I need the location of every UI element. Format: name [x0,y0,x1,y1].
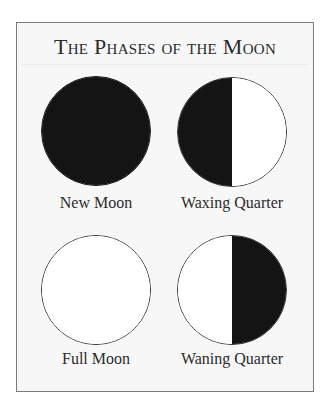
waning-quarter-label: Waning Quarter [162,350,302,368]
new-moon-left-half [42,77,96,185]
full-moon-label: Full Moon [26,350,166,368]
new-moon-label: New Moon [26,194,166,212]
title-divider [21,64,309,65]
diagram-frame: The Phases of the Moon New Moon Waxing Q… [16,22,314,392]
waxing-quarter-right-half [232,78,286,186]
waning-quarter-left-half [178,236,232,344]
new-moon-icon [41,76,151,186]
waxing-quarter-left-half [178,78,232,186]
full-moon-left-half [42,236,96,344]
waning-quarter-right-half [232,236,286,344]
waning-quarter-icon [177,235,287,345]
full-moon-icon [41,235,151,345]
waxing-quarter-label: Waxing Quarter [162,194,302,212]
new-moon-right-half [96,77,150,185]
diagram-title: The Phases of the Moon [17,34,313,60]
waxing-quarter-icon [177,77,287,187]
full-moon-right-half [96,236,150,344]
